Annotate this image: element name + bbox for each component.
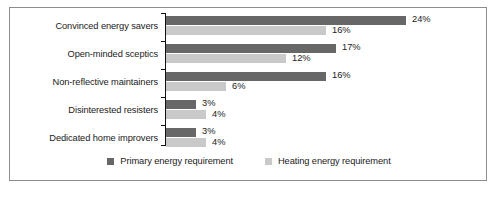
bar-primary[interactable]	[166, 72, 326, 81]
chart-legend: Primary energy requirement Heating energ…	[10, 151, 488, 171]
chart-row: Convinced energy savers 24% 16%	[10, 12, 488, 40]
plot-area: Convinced energy savers 24% 16% Open-min…	[10, 8, 488, 150]
axis-tick	[161, 125, 166, 126]
bar-heating[interactable]	[166, 82, 226, 91]
bar-value-heating: 16%	[332, 26, 351, 35]
bar-primary[interactable]	[166, 128, 196, 137]
legend-item-primary[interactable]: Primary energy requirement	[107, 156, 233, 166]
bar-value-heating: 4%	[212, 110, 225, 119]
legend-item-heating[interactable]: Heating energy requirement	[265, 156, 391, 166]
category-label: Disinterested resisters	[10, 96, 158, 124]
bar-heating[interactable]	[166, 110, 206, 119]
axis-tick	[161, 145, 166, 146]
legend-label: Heating energy requirement	[278, 156, 391, 166]
bar-value-primary: 17%	[342, 43, 361, 52]
bar-value-primary: 16%	[332, 71, 351, 80]
axis-tick	[161, 97, 166, 98]
bar-value-primary: 3%	[202, 99, 215, 108]
bar-heating[interactable]	[166, 138, 206, 147]
bar-primary[interactable]	[166, 100, 196, 109]
bar-value-heating: 4%	[212, 138, 225, 147]
bar-value-heating: 12%	[292, 54, 311, 63]
bar-value-primary: 24%	[412, 15, 431, 24]
category-label: Open-minded sceptics	[10, 40, 158, 68]
legend-swatch-icon	[265, 158, 272, 165]
axis-tick	[161, 13, 166, 14]
axis-tick	[161, 41, 166, 42]
legend-swatch-icon	[107, 158, 114, 165]
category-label: Convinced energy savers	[10, 12, 158, 40]
chart-row: Disinterested resisters 3% 4%	[10, 96, 488, 124]
chart-row: Dedicated home improvers 3% 4%	[10, 124, 488, 152]
bar-primary[interactable]	[166, 16, 406, 25]
chart-row: Open-minded sceptics 17% 12%	[10, 40, 488, 68]
bar-value-heating: 6%	[232, 82, 245, 91]
legend-label: Primary energy requirement	[120, 156, 233, 166]
chart-row: Non-reflective maintainers 16% 6%	[10, 68, 488, 96]
axis-tick	[161, 69, 166, 70]
bar-heating[interactable]	[166, 54, 286, 63]
bar-value-primary: 3%	[202, 127, 215, 136]
bar-heating[interactable]	[166, 26, 326, 35]
chart-figure: Convinced energy savers 24% 16% Open-min…	[9, 7, 487, 181]
category-label: Non-reflective maintainers	[10, 68, 158, 96]
category-label: Dedicated home improvers	[10, 124, 158, 152]
bar-primary[interactable]	[166, 44, 336, 53]
